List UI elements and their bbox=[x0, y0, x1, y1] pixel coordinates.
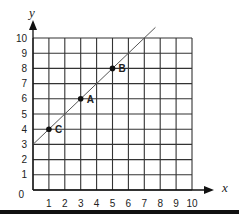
x-tick-label: 3 bbox=[78, 198, 84, 209]
grid-lines bbox=[33, 38, 192, 190]
y-tick-label: 4 bbox=[21, 124, 27, 135]
x-tick-label: 5 bbox=[110, 198, 116, 209]
y-tick-label: 10 bbox=[16, 33, 28, 44]
x-tick-label: 9 bbox=[173, 198, 179, 209]
x-tick-label: 7 bbox=[142, 198, 148, 209]
y-tick-label: 7 bbox=[21, 78, 27, 89]
point-a bbox=[78, 96, 84, 102]
point-label-b: B bbox=[119, 63, 126, 74]
coordinate-grid-chart: 12345678910012345678910 CAB x y bbox=[0, 0, 239, 214]
x-axis-label: x bbox=[221, 180, 228, 195]
y-tick-label: 8 bbox=[21, 63, 27, 74]
bottom-border bbox=[0, 210, 239, 214]
x-tick-label: 1 bbox=[46, 198, 52, 209]
y-tick-label: 3 bbox=[21, 139, 27, 150]
y-tick-label: 5 bbox=[21, 109, 27, 120]
x-tick-label: 2 bbox=[62, 198, 68, 209]
y-tick-label: 2 bbox=[21, 154, 27, 165]
tick-labels: 12345678910012345678910 bbox=[16, 33, 198, 210]
point-label-a: A bbox=[87, 94, 94, 105]
y-axis-arrow-icon bbox=[29, 20, 37, 30]
y-tick-label: 0 bbox=[18, 189, 24, 200]
y-axis-label: y bbox=[27, 5, 35, 20]
point-c bbox=[46, 126, 52, 132]
data-line bbox=[33, 27, 155, 144]
x-tick-label: 8 bbox=[157, 198, 163, 209]
y-tick-label: 9 bbox=[21, 48, 27, 59]
point-label-c: C bbox=[55, 124, 62, 135]
x-tick-label: 4 bbox=[94, 198, 100, 209]
point-b bbox=[110, 66, 116, 72]
x-axis-arrow-icon bbox=[204, 186, 214, 194]
x-tick-label: 10 bbox=[186, 198, 198, 209]
y-tick-label: 1 bbox=[21, 169, 27, 180]
x-tick-label: 6 bbox=[126, 198, 132, 209]
y-tick-label: 6 bbox=[21, 93, 27, 104]
axes bbox=[29, 20, 214, 194]
